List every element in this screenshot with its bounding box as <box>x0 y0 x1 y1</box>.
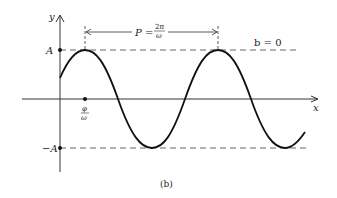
amplitude-dot <box>58 48 62 52</box>
phase-dot <box>83 97 87 101</box>
amplitude-label: A <box>45 45 53 56</box>
y-axis-label: y <box>48 11 55 22</box>
negative-amplitude-label: −A <box>42 143 58 154</box>
period-label: P = <box>134 27 153 38</box>
x-axis-label: x <box>313 102 319 113</box>
sinusoid-diagram: y x A −A b = 0 φ ω P = 2π ω (b) <box>0 0 337 198</box>
period-denominator: ω <box>156 32 162 40</box>
period-numerator: 2π <box>155 23 164 31</box>
figure-caption: (b) <box>160 179 173 189</box>
negative-amplitude-dot <box>58 146 62 150</box>
phase-denominator: ω <box>81 114 87 122</box>
offset-label: b = 0 <box>254 37 282 48</box>
phase-numerator: φ <box>82 105 87 113</box>
